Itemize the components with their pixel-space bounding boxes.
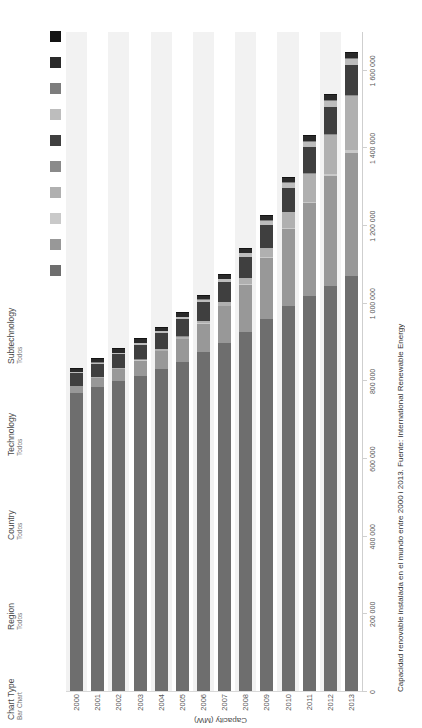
bar-segment[interactable]: [282, 306, 295, 691]
bar-segment[interactable]: [239, 285, 252, 332]
bar-segment[interactable]: [260, 258, 273, 320]
bar-segment[interactable]: [239, 284, 252, 285]
bar-2004[interactable]: [155, 328, 168, 691]
bar-segment[interactable]: [218, 279, 231, 280]
bar-segment[interactable]: [345, 150, 358, 153]
bar-segment[interactable]: [91, 378, 104, 387]
bar-2006[interactable]: [197, 296, 210, 691]
bar-segment[interactable]: [176, 337, 189, 339]
bar-segment[interactable]: [324, 95, 337, 100]
bar-segment[interactable]: [112, 349, 125, 352]
bar-segment[interactable]: [303, 296, 316, 691]
bar-segment[interactable]: [91, 377, 104, 378]
bar-segment[interactable]: [70, 373, 83, 385]
bar-segment[interactable]: [239, 278, 252, 284]
bar-segment[interactable]: [324, 101, 337, 107]
bar-segment[interactable]: [324, 174, 337, 176]
bar-segment[interactable]: [260, 220, 273, 221]
bar-segment[interactable]: [134, 360, 147, 361]
bar-2007[interactable]: [218, 275, 231, 691]
bar-segment[interactable]: [70, 393, 83, 691]
bar-2002[interactable]: [112, 349, 125, 691]
bar-2012[interactable]: [324, 95, 337, 691]
bar-segment[interactable]: [324, 286, 337, 691]
bar-segment[interactable]: [324, 107, 337, 135]
control-subtechnology[interactable]: Subtechnology Todos: [6, 308, 24, 364]
bar-segment[interactable]: [282, 182, 295, 183]
bar-segment[interactable]: [134, 345, 147, 360]
bar-segment[interactable]: [239, 257, 252, 278]
bar-segment[interactable]: [239, 332, 252, 691]
bar-segment[interactable]: [260, 248, 273, 257]
bar-segment[interactable]: [218, 302, 231, 306]
bar-segment[interactable]: [155, 369, 168, 691]
bar-segment[interactable]: [176, 339, 189, 362]
bar-segment[interactable]: [218, 279, 231, 282]
bar-segment[interactable]: [197, 299, 210, 300]
bar-segment[interactable]: [197, 300, 210, 302]
bar-segment[interactable]: [260, 319, 273, 691]
bar-segment[interactable]: [345, 153, 358, 276]
bar-2000[interactable]: [70, 369, 83, 691]
bar-segment[interactable]: [197, 296, 210, 300]
bar-segment[interactable]: [134, 376, 147, 691]
bar-segment[interactable]: [345, 59, 358, 65]
bar-segment[interactable]: [345, 65, 358, 94]
bar-segment[interactable]: [345, 58, 358, 59]
bar-segment[interactable]: [112, 368, 125, 369]
bar-segment[interactable]: [218, 275, 231, 279]
bar-segment[interactable]: [176, 319, 189, 336]
bar-2009[interactable]: [260, 216, 273, 691]
bar-segment[interactable]: [155, 328, 168, 331]
bar-segment[interactable]: [324, 100, 337, 101]
bar-segment[interactable]: [218, 343, 231, 691]
bar-segment[interactable]: [197, 302, 210, 320]
bar-segment[interactable]: [303, 202, 316, 204]
bar-segment[interactable]: [239, 249, 252, 253]
bar-2010[interactable]: [282, 178, 295, 691]
bar-segment[interactable]: [176, 317, 189, 319]
bar-segment[interactable]: [324, 135, 337, 174]
bar-segment[interactable]: [91, 387, 104, 691]
bar-segment[interactable]: [282, 228, 295, 229]
bar-segment[interactable]: [155, 351, 168, 369]
bar-segment[interactable]: [239, 253, 252, 254]
bar-segment[interactable]: [324, 134, 337, 135]
bar-segment[interactable]: [282, 183, 295, 188]
bar-segment[interactable]: [303, 136, 316, 140]
bar-segment[interactable]: [134, 343, 147, 345]
bar-segment[interactable]: [70, 369, 83, 372]
bar-segment[interactable]: [303, 174, 316, 202]
bar-segment[interactable]: [112, 369, 125, 381]
bar-segment[interactable]: [197, 324, 210, 353]
bar-segment[interactable]: [324, 176, 337, 286]
control-region[interactable]: Region Todos: [6, 603, 24, 630]
bar-segment[interactable]: [345, 276, 358, 691]
bar-segment[interactable]: [218, 306, 231, 342]
bar-segment[interactable]: [239, 253, 252, 256]
bar-segment[interactable]: [176, 313, 189, 316]
bar-segment[interactable]: [282, 188, 295, 212]
bar-segment[interactable]: [282, 212, 295, 213]
bar-segment[interactable]: [282, 212, 295, 228]
bar-segment[interactable]: [303, 173, 316, 174]
bar-segment[interactable]: [260, 257, 273, 258]
bar-2001[interactable]: [91, 359, 104, 691]
control-technology[interactable]: Technology Todos: [6, 413, 24, 456]
control-chart-type[interactable]: Chart Type Bar Chart: [6, 679, 24, 720]
bar-2011[interactable]: [303, 136, 316, 691]
bar-segment[interactable]: [197, 352, 210, 691]
bar-segment[interactable]: [134, 339, 147, 342]
bar-segment[interactable]: [303, 147, 316, 173]
bar-segment[interactable]: [112, 354, 125, 368]
bar-segment[interactable]: [70, 386, 83, 393]
bar-segment[interactable]: [303, 141, 316, 142]
bar-segment[interactable]: [155, 333, 168, 349]
bar-segment[interactable]: [112, 353, 125, 354]
control-country[interactable]: Country Todos: [6, 510, 24, 540]
bar-segment[interactable]: [303, 142, 316, 147]
bar-segment[interactable]: [282, 229, 295, 306]
bar-segment[interactable]: [155, 332, 168, 334]
bar-segment[interactable]: [155, 349, 168, 350]
bar-segment[interactable]: [260, 225, 273, 248]
